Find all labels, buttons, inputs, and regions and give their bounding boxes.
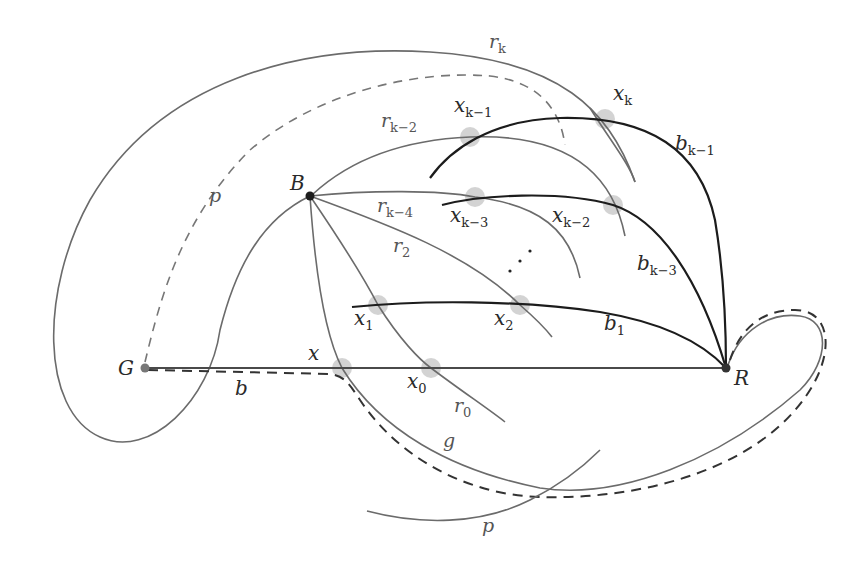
label-b: b <box>235 376 248 400</box>
edge-b-k-1 <box>430 118 726 368</box>
label-r-k-2: rk−2 <box>381 109 417 135</box>
label-b-k-1: bk−1 <box>675 131 715 158</box>
label-x: x <box>308 341 319 365</box>
diagram-canvas: G B R x x0 x1 x2 xk−3 xk−2 xk−1 xk rk rk… <box>0 0 864 570</box>
label-r-0: r0 <box>454 394 471 420</box>
label-b-k-3: bk−3 <box>637 251 677 278</box>
label-xk1: xk−1 <box>454 93 492 120</box>
label-x2: x2 <box>494 306 514 333</box>
label-r-k-4: rk−4 <box>377 194 413 220</box>
edge-r-2 <box>310 196 552 337</box>
vertex-b <box>306 192 315 201</box>
label-b-1: b1 <box>604 311 625 338</box>
edge-p-lower <box>367 450 600 520</box>
graph-diagram: G B R x x0 x1 x2 xk−3 xk−2 xk−1 xk rk rk… <box>0 0 864 570</box>
ellipsis-dots <box>508 249 531 272</box>
label-r-k: rk <box>489 30 506 56</box>
edge-b-1 <box>352 302 726 368</box>
label-b: B <box>289 171 305 195</box>
vertex-r <box>722 364 731 373</box>
label-xk: xk <box>613 81 632 108</box>
label-p-lower: p <box>482 514 494 536</box>
edge-g <box>310 196 823 490</box>
label-xk2: xk−2 <box>552 203 590 230</box>
vertex-g <box>141 364 150 373</box>
label-g-edge: g <box>443 429 455 451</box>
label-p-upper: p <box>209 184 221 206</box>
label-r-2: r2 <box>393 234 410 260</box>
label-xk3: xk−3 <box>450 203 488 230</box>
label-r: R <box>733 366 749 390</box>
crossing-halos <box>332 109 623 378</box>
label-g: G <box>118 356 134 380</box>
edge-b-dashed <box>148 310 826 497</box>
